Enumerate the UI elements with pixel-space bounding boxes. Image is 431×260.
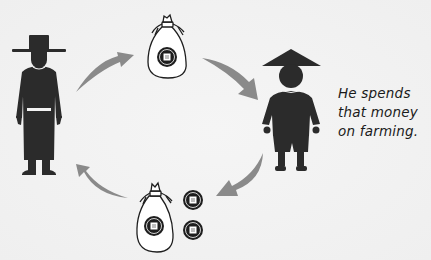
caption-line: He spends <box>338 84 431 103</box>
arrow-bottombag-to-official <box>76 164 128 198</box>
coin-icon <box>144 216 164 236</box>
coin-icon <box>157 47 177 67</box>
coin-icon <box>183 190 203 210</box>
belt <box>27 108 51 111</box>
money-bag-top <box>148 15 186 78</box>
caption-line: on farming. <box>338 122 431 141</box>
diagram-canvas: He spends that money on farming. <box>0 0 431 260</box>
caption-text: He spends that money on farming. <box>338 84 431 141</box>
arrow-topbag-to-farmer <box>202 58 258 100</box>
caption-line: that money <box>338 103 431 122</box>
official-figure <box>12 35 66 175</box>
coin-icon <box>183 220 203 240</box>
arrow-farmer-to-bottombag <box>216 153 263 196</box>
farmer-figure <box>262 49 321 171</box>
arrow-official-to-topbag <box>76 52 134 92</box>
